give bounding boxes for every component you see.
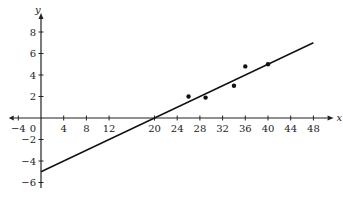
x-tick-label: 28 — [194, 123, 207, 134]
x-tick-label: 24 — [171, 123, 184, 134]
y-tick-label: −6 — [21, 177, 36, 188]
x-tick-label: 32 — [216, 123, 229, 134]
x-tick-label: 20 — [148, 123, 161, 134]
y-tick-label: 2 — [30, 91, 36, 102]
data-point — [243, 64, 247, 68]
x-tick-label: 0 — [30, 123, 36, 134]
x-tick-label: 44 — [284, 123, 297, 134]
x-tick-label: 12 — [103, 123, 116, 134]
data-point — [186, 94, 190, 98]
x-tick-label: 48 — [307, 123, 320, 134]
data-point — [232, 84, 236, 88]
y-tick-label: 4 — [30, 70, 36, 81]
scatter-chart: xy−40481220242832364044488642−2−4−6 — [0, 0, 343, 198]
y-tick-label: 6 — [30, 48, 36, 59]
x-tick-label: 40 — [262, 123, 275, 134]
x-tick-label: 4 — [61, 123, 67, 134]
y-tick-label: −2 — [21, 134, 36, 145]
best-fit-line — [41, 43, 313, 172]
x-axis-label: x — [337, 112, 343, 123]
data-point — [203, 95, 207, 99]
x-tick-label: 36 — [239, 123, 252, 134]
y-tick-label: 8 — [30, 27, 36, 38]
y-tick-label: −4 — [21, 156, 36, 167]
y-axis-label: y — [34, 4, 41, 15]
x-tick-label: −4 — [11, 123, 26, 134]
x-tick-label: 8 — [83, 123, 89, 134]
x-axis-arrow-icon — [328, 116, 334, 121]
x-axis-left-arrow-icon — [9, 116, 14, 121]
